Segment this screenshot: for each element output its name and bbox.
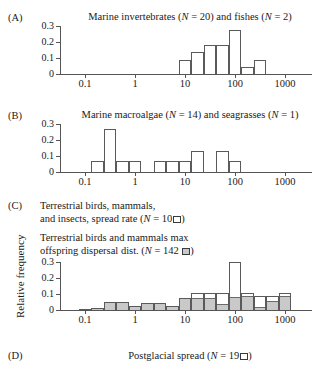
- histogram-bar: [254, 60, 267, 74]
- panel-c-title-line-4a: offspring dispersal dist. (: [40, 245, 145, 256]
- panel-a-ytick-0: [56, 74, 60, 75]
- figure-histogram-panels: Relative frequency (A) Marine invertebra…: [0, 0, 318, 369]
- panel-a-y-axis: [60, 26, 61, 74]
- panel-c-xtick-label-4: 1000: [275, 315, 296, 326]
- panel-c-legend-entry-grey: offspring dispersal dist. (N = 142 ): [40, 245, 194, 256]
- panel-c-x-axis: [60, 310, 312, 311]
- panel-b-tag: (B): [8, 110, 22, 121]
- panel-a-ytick-1: [56, 58, 60, 59]
- panel-d-title-part2: = 19: [218, 350, 240, 361]
- panel-d-title: Postglacial spread (N = 19): [66, 350, 314, 361]
- panel-c-xtick-label-2: 10: [180, 315, 191, 326]
- histogram-bar: [254, 296, 267, 310]
- panel-a-title-n1: N: [182, 11, 189, 22]
- panel-c-xtick-label-0: 0.1: [78, 315, 91, 326]
- histogram-bar: [241, 293, 254, 310]
- panel-c-ytick-2: [56, 278, 60, 279]
- panel-b-ytick-0: [56, 172, 60, 173]
- histogram-bar: [229, 262, 242, 310]
- panel-c-ytick-label-2: 0.2: [42, 273, 55, 283]
- panel-b-ytick-2: [56, 140, 60, 141]
- panel-d-open-square-icon: [240, 353, 248, 360]
- panel-c-ytick-label-1: 0.1: [42, 289, 55, 299]
- histogram-bar: [154, 303, 167, 310]
- histogram-bar: [129, 161, 142, 172]
- histogram-bar: [191, 52, 204, 74]
- panel-a-title-part1: Marine invertebrates (: [88, 11, 181, 22]
- histogram-bar: [179, 298, 192, 310]
- panel-a-title-part2: = 20) and fishes (: [189, 11, 265, 22]
- panel-c-tag: (C): [8, 200, 22, 211]
- panel-c-title-line-4b: = 142: [152, 245, 182, 256]
- histogram-bar: [229, 161, 242, 172]
- panel-b: (B) Marine macroalgae (N = 14) and seagr…: [0, 98, 318, 190]
- panel-d-title-n: N: [211, 350, 218, 361]
- histogram-bar: [241, 67, 254, 74]
- panel-a-title-part3: = 2): [272, 11, 292, 22]
- histogram-bar: [79, 309, 92, 310]
- histogram-bar: [179, 60, 192, 74]
- panel-b-y-axis: [60, 124, 61, 172]
- panel-a-x-axis: [60, 74, 312, 75]
- panel-b-plot: 0 0.1 0.2 0.3 0.1 1 10 100 1000: [60, 124, 312, 172]
- panel-b-xtick-label-0: 0.1: [78, 177, 91, 188]
- panel-a-title: Marine invertebrates (N = 20) and fishes…: [66, 11, 314, 22]
- panel-a-xtick-label-4: 1000: [275, 79, 296, 90]
- histogram-bar: [204, 45, 217, 74]
- histogram-bar: [91, 308, 104, 310]
- panel-c-title-line-2b: = 10: [151, 213, 173, 224]
- panel-d-title-part1: Postglacial spread (: [128, 350, 210, 361]
- panel-d-title-part3: ): [248, 350, 252, 361]
- panel-b-x-axis: [60, 172, 312, 173]
- panel-b-xtick-label-3: 100: [227, 177, 243, 188]
- histogram-bar: [91, 161, 104, 172]
- histogram-bar: [266, 296, 279, 310]
- histogram-bar: [104, 129, 117, 172]
- panel-b-ytick-label-3: 0.3: [42, 119, 55, 129]
- panel-c-ytick-label-3: 0.3: [42, 257, 55, 267]
- panel-b-ytick-1: [56, 156, 60, 157]
- panel-a-ytick-label-0: 0: [49, 69, 54, 79]
- histogram-bar: [179, 161, 192, 172]
- histogram-bar: [141, 303, 154, 310]
- panel-b-xtick-label-4: 1000: [275, 177, 296, 188]
- histogram-bar: [191, 293, 204, 310]
- histogram-bar: [154, 161, 167, 172]
- panel-a-plot: 0 0.1 0.2 0.3 0.1 1 10 100 1000: [60, 26, 312, 74]
- panel-a-ytick-label-2: 0.2: [42, 37, 55, 47]
- panel-c: (C) Terrestrial birds, mammals, and inse…: [0, 196, 318, 336]
- panel-c-xtick-label-1: 1: [132, 315, 137, 326]
- panel-b-title-part3: = 1): [279, 109, 299, 120]
- panel-a-ytick-3: [56, 26, 60, 27]
- panel-c-title-line-2a: and insects, spread rate (: [40, 213, 144, 224]
- histogram-bar: [204, 293, 217, 310]
- panel-c-title-line-4c: ): [190, 245, 194, 256]
- panel-c-title-line-1: Terrestrial birds, mammals,: [40, 200, 155, 211]
- panel-b-ytick-label-0: 0: [49, 167, 54, 177]
- panel-c-title-line-2-n: N: [144, 213, 151, 224]
- histogram-bar: [104, 302, 117, 310]
- histogram-bar: [191, 151, 204, 172]
- histogram-bar: [129, 306, 142, 310]
- panel-a-title-n2: N: [265, 11, 272, 22]
- histogram-bar: [229, 30, 242, 74]
- panel-b-title-n2: N: [271, 109, 278, 120]
- panel-c-y-axis: [60, 262, 61, 310]
- panel-b-ytick-3: [56, 124, 60, 125]
- panel-d: (D) Postglacial spread (N = 19): [0, 348, 318, 369]
- panel-b-title: Marine macroalgae (N = 14) and seagrasse…: [66, 109, 314, 120]
- panel-c-xtick-label-3: 100: [227, 315, 243, 326]
- panel-c-ytick-0: [56, 310, 60, 311]
- histogram-bar: [216, 151, 229, 172]
- histogram-bar: [216, 45, 229, 74]
- panel-c-ytick-label-0: 0: [49, 305, 54, 315]
- panel-b-title-n1: N: [169, 109, 176, 120]
- panel-b-title-part2: = 14) and seagrasses (: [176, 109, 271, 120]
- panel-b-xtick-label-1: 1: [132, 177, 137, 188]
- panel-b-ytick-label-2: 0.2: [42, 135, 55, 145]
- histogram-bar: [116, 161, 129, 172]
- panel-c-plot: 0 0.1 0.2 0.3 0.1 1 10 100 1000: [60, 262, 312, 310]
- panel-c-ytick-1: [56, 294, 60, 295]
- histogram-bar: [116, 302, 129, 310]
- panel-d-tag: (D): [8, 350, 23, 361]
